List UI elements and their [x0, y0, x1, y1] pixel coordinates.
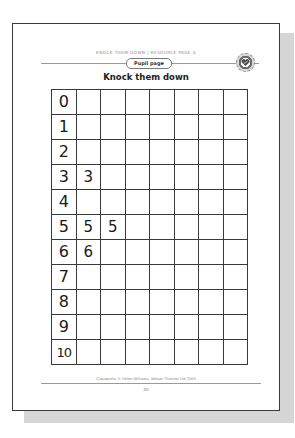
row-label: 7: [52, 265, 77, 290]
row-label: 8: [52, 290, 77, 315]
grid-cell[interactable]: [101, 290, 126, 315]
grid-cell[interactable]: [223, 115, 248, 140]
grid-cell[interactable]: [199, 140, 224, 165]
grid-cell[interactable]: [76, 340, 101, 365]
document-page: Knock Them Down | Resource Page A Pupil …: [12, 23, 280, 411]
grid-cell[interactable]: [150, 240, 175, 265]
grid-cell[interactable]: [174, 315, 199, 340]
grid-cell[interactable]: [223, 140, 248, 165]
grid-cell[interactable]: [223, 90, 248, 115]
grid-cell[interactable]: [101, 265, 126, 290]
grid-row: 66: [52, 240, 248, 265]
grid-cell[interactable]: [125, 265, 150, 290]
grid-cell[interactable]: [101, 90, 126, 115]
grid-cell[interactable]: [150, 265, 175, 290]
grid-cell[interactable]: [174, 115, 199, 140]
grid-cell[interactable]: [101, 240, 126, 265]
grid-cell[interactable]: [223, 165, 248, 190]
grid-cell[interactable]: 3: [76, 165, 101, 190]
grid-cell[interactable]: [150, 315, 175, 340]
grid-cell[interactable]: 5: [101, 215, 126, 240]
grid-cell[interactable]: [76, 265, 101, 290]
grid-cell[interactable]: [223, 265, 248, 290]
grid-cell[interactable]: [223, 190, 248, 215]
grid-cell[interactable]: [174, 165, 199, 190]
grid-row: 9: [52, 315, 248, 340]
grid-cell[interactable]: [150, 165, 175, 190]
grid-cell[interactable]: [199, 290, 224, 315]
grid-cell[interactable]: [174, 90, 199, 115]
grid-cell[interactable]: [150, 115, 175, 140]
grid-cell[interactable]: [76, 315, 101, 340]
grid-cell[interactable]: [101, 115, 126, 140]
grid-cell[interactable]: [174, 190, 199, 215]
grid-row: 555: [52, 215, 248, 240]
grid-cell[interactable]: [199, 240, 224, 265]
grid-cell[interactable]: [76, 190, 101, 215]
grid-cell[interactable]: [223, 315, 248, 340]
grid-cell[interactable]: [223, 215, 248, 240]
grid-cell[interactable]: [199, 215, 224, 240]
grid-cell[interactable]: [223, 290, 248, 315]
page-number: 30: [13, 387, 279, 392]
grid-cell[interactable]: [101, 190, 126, 215]
page-title: Knock them down: [13, 72, 279, 82]
grid-cell[interactable]: [101, 340, 126, 365]
heart-seal-icon: [236, 53, 255, 72]
grid-cell[interactable]: 5: [76, 215, 101, 240]
grid-cell[interactable]: [199, 115, 224, 140]
grid-cell[interactable]: [174, 240, 199, 265]
grid-cell[interactable]: [150, 340, 175, 365]
grid-cell[interactable]: [125, 215, 150, 240]
grid-cell[interactable]: [199, 265, 224, 290]
grid-cell[interactable]: [174, 215, 199, 240]
grid-cell[interactable]: [125, 290, 150, 315]
grid-row: 7: [52, 265, 248, 290]
grid-row: 2: [52, 140, 248, 165]
copyright-text: Classworks © Helen Williams, Nelson Thor…: [13, 377, 279, 381]
grid-cell[interactable]: 6: [76, 240, 101, 265]
grid-cell[interactable]: [174, 265, 199, 290]
row-label: 4: [52, 190, 77, 215]
grid-cell[interactable]: [199, 340, 224, 365]
grid-cell[interactable]: [76, 90, 101, 115]
grid-cell[interactable]: [223, 340, 248, 365]
grid-cell[interactable]: [150, 90, 175, 115]
grid-cell[interactable]: [76, 140, 101, 165]
grid-cell[interactable]: [174, 290, 199, 315]
row-label: 1: [52, 115, 77, 140]
grid-cell[interactable]: [76, 115, 101, 140]
grid-row: 10: [52, 340, 248, 365]
grid-cell[interactable]: [125, 90, 150, 115]
grid-cell[interactable]: [150, 140, 175, 165]
grid-cell[interactable]: [125, 190, 150, 215]
grid-row: 0: [52, 90, 248, 115]
grid-row: 4: [52, 190, 248, 215]
grid-cell[interactable]: [101, 315, 126, 340]
grid-cell[interactable]: [125, 140, 150, 165]
grid-cell[interactable]: [223, 240, 248, 265]
grid-cell[interactable]: [199, 315, 224, 340]
grid-cell[interactable]: [174, 140, 199, 165]
grid-cell[interactable]: [199, 190, 224, 215]
grid-cell[interactable]: [199, 90, 224, 115]
grid-row: 8: [52, 290, 248, 315]
grid-cell[interactable]: [174, 340, 199, 365]
grid-cell[interactable]: [125, 240, 150, 265]
grid-row: 1: [52, 115, 248, 140]
grid-cell[interactable]: [125, 115, 150, 140]
grid-cell[interactable]: [150, 215, 175, 240]
grid-cell[interactable]: [101, 140, 126, 165]
section-pill: Pupil page: [126, 58, 172, 69]
grid-cell[interactable]: [150, 190, 175, 215]
grid-cell[interactable]: [125, 315, 150, 340]
grid-cell[interactable]: [150, 290, 175, 315]
row-label: 10: [52, 340, 77, 365]
grid-cell[interactable]: [125, 165, 150, 190]
grid-cell[interactable]: [76, 290, 101, 315]
grid-cell[interactable]: [125, 340, 150, 365]
footer-rule: [41, 383, 261, 384]
grid-cell[interactable]: [199, 165, 224, 190]
grid-cell[interactable]: [101, 165, 126, 190]
number-grid: 0123345556678910: [51, 89, 248, 365]
